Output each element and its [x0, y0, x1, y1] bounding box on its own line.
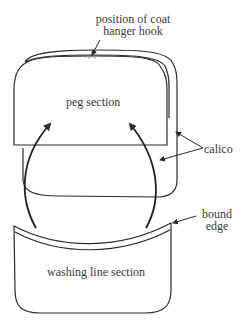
calico-leader-arrow-lower [160, 148, 203, 160]
calico-label: calico [204, 143, 233, 155]
peg-section-label: peg section [66, 96, 120, 108]
hook-leader-arrow [92, 40, 100, 55]
hook-label: position of coat hanger hook [93, 13, 173, 37]
washing-line-section-label: washing line section [47, 266, 145, 278]
calico-leader-arrow-upper [176, 132, 203, 148]
bound-edge-label: bound edge [196, 208, 238, 232]
bound-edge-leader-arrow [173, 216, 196, 223]
bound-edge-label-line2: edge [196, 220, 238, 232]
hook-label-line2: hanger hook [93, 25, 173, 37]
